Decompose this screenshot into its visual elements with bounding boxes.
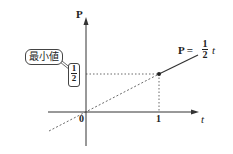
line-label-fraction: 1 2 [201, 39, 209, 60]
x-axis-arrow-icon [191, 110, 199, 115]
point-marker [157, 72, 161, 76]
y-marker-denominator: 2 [72, 74, 77, 83]
y-marker-fraction: 1 2 [70, 64, 78, 83]
solid-line-segment [159, 55, 198, 74]
diagram-canvas [0, 0, 233, 154]
dashed-line-extension [49, 74, 159, 131]
origin-label: 0 [79, 113, 84, 124]
y-marker-numerator: 1 [72, 64, 77, 73]
y-axis-arrow-icon [84, 17, 89, 25]
line-label-prefix: P = [178, 44, 193, 56]
y-axis-label: P [76, 8, 83, 20]
x-tick-label: 1 [156, 113, 161, 124]
line-label-variable: t [212, 44, 215, 56]
minimum-value-callout: 最小値 [25, 49, 63, 65]
x-axis-label: t [201, 113, 204, 125]
